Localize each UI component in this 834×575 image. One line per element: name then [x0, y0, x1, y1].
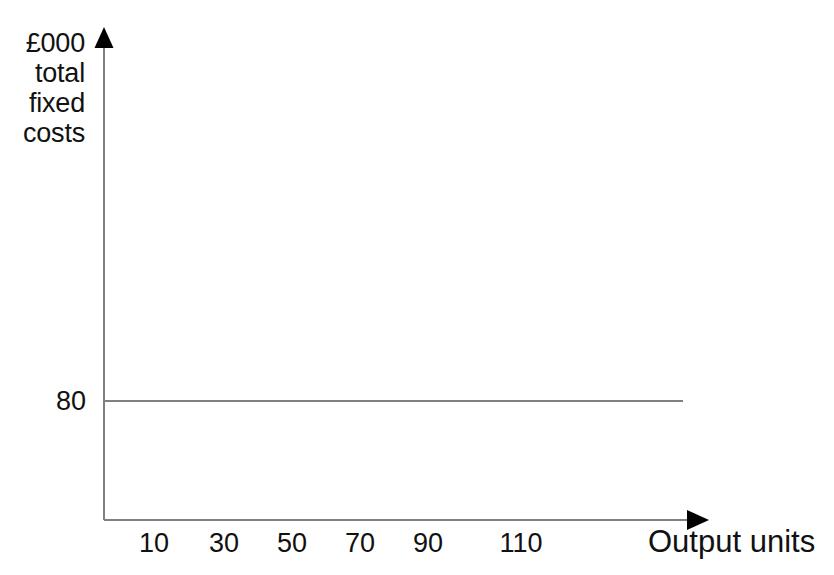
y-axis-arrowhead-icon	[95, 27, 114, 48]
x-tick-label-10: 10	[119, 527, 189, 559]
x-tick-label-70: 70	[325, 527, 395, 559]
chart-canvas	[0, 0, 834, 575]
x-tick-label-110: 110	[486, 527, 556, 559]
x-axis-title: Output units	[648, 524, 815, 560]
x-tick-label-30: 30	[189, 527, 259, 559]
fixed-cost-chart: £000 total fixed costs 80 10 30 50 70 90…	[0, 0, 834, 575]
y-axis-title-line-3: fixed	[0, 88, 85, 118]
x-tick-label-90: 90	[393, 527, 463, 559]
y-axis-title-line-1: £000	[0, 28, 85, 58]
y-axis-title-line-4: costs	[0, 118, 85, 148]
y-tick-label-80: 80	[0, 386, 86, 416]
x-tick-label-50: 50	[257, 527, 327, 559]
y-axis-title: £000 total fixed costs	[0, 28, 85, 148]
y-axis-title-line-2: total	[0, 58, 85, 88]
